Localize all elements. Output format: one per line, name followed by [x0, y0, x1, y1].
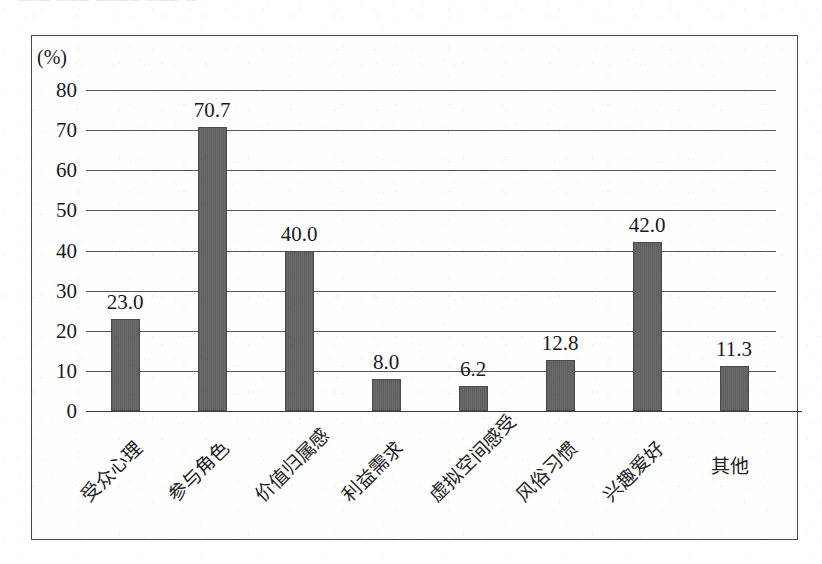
y-axis-unit-label: (%)	[37, 47, 67, 67]
y-axis-tick-label: 10	[31, 360, 77, 381]
bar-value-label: 70.7	[194, 100, 231, 121]
y-axis-tick-label: 0	[31, 401, 77, 422]
bar	[633, 242, 662, 411]
y-axis-tick-label: 80	[31, 80, 77, 101]
gridline	[86, 291, 776, 292]
gridline	[86, 90, 776, 91]
plot-area: (%) 01020304050607080 23.070.740.08.06.2…	[32, 36, 799, 541]
y-axis-tick-label: 40	[31, 240, 77, 261]
y-axis-tick-label: 20	[31, 320, 77, 341]
gridline	[86, 251, 776, 252]
figure-frame: (%) 01020304050607080 23.070.740.08.06.2…	[31, 35, 798, 540]
bar-value-label: 23.0	[107, 292, 144, 313]
cropped-caption-text: □□□ □□□ □□□□ □□□ □	[18, 0, 198, 4]
gridline	[86, 130, 776, 131]
bar	[546, 360, 575, 411]
bar	[372, 379, 401, 411]
bar-value-label: 42.0	[629, 215, 666, 236]
gridline	[86, 170, 776, 171]
bar-value-label: 11.3	[716, 339, 752, 360]
gridline	[86, 371, 776, 372]
y-axis-tick-label: 60	[31, 160, 77, 181]
bar-value-label: 8.0	[373, 352, 399, 373]
y-axis-tick-label: 70	[31, 120, 77, 141]
bar-value-label: 40.0	[281, 224, 318, 245]
y-axis-tick-label: 50	[31, 200, 77, 221]
gridline	[86, 210, 776, 211]
bar	[111, 319, 140, 411]
bar	[459, 386, 488, 411]
cropped-caption-sliver: □□□ □□□ □□□□ □□□ □	[18, 0, 278, 7]
y-axis-tick-label: 30	[31, 280, 77, 301]
bar	[198, 127, 227, 411]
bar-value-label: 6.2	[460, 359, 486, 380]
gridline	[86, 331, 776, 332]
bar-value-label: 12.8	[542, 333, 579, 354]
bar	[720, 366, 749, 411]
bar	[285, 251, 314, 412]
x-axis-category-label: 其他	[711, 457, 749, 476]
x-axis-baseline	[86, 411, 802, 412]
